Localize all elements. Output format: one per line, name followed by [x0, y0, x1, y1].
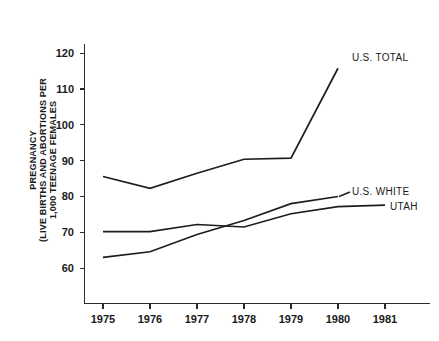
x-tick-label-1979: 1979: [279, 313, 303, 325]
y-tick-label-120: 120: [56, 47, 74, 59]
x-tick-label-1977: 1977: [185, 313, 209, 325]
y-tick-label-90: 90: [62, 155, 74, 167]
series-label-utah: UTAH: [390, 201, 418, 212]
series-label-us-total: U.S. TOTAL: [352, 52, 408, 63]
x-tick-label-1978: 1978: [232, 313, 256, 325]
x-tick-label-1981: 1981: [373, 313, 397, 325]
x-tick-label-1980: 1980: [326, 313, 350, 325]
y-tick-label-80: 80: [62, 190, 74, 202]
x-tick-label-1976: 1976: [138, 313, 162, 325]
y-tick-label-60: 60: [62, 262, 74, 274]
x-tick-label-1975: 1975: [91, 313, 115, 325]
y-tick-label-100: 100: [56, 119, 74, 131]
y-axis-title-line-2: (LIVE BIRTHS AND ABORTIONS PER: [38, 78, 48, 242]
series-label-us-white: U.S. WHITE: [352, 186, 409, 197]
y-axis-title-line-1: PREGNANCY: [28, 130, 38, 189]
chart-canvas: PREGNANCY (LIVE BIRTHS AND ABORTIONS PER…: [0, 0, 439, 341]
teen-pregnancy-line-chart: PREGNANCY (LIVE BIRTHS AND ABORTIONS PER…: [0, 0, 439, 341]
y-tick-label-110: 110: [56, 83, 74, 95]
y-tick-label-70: 70: [62, 226, 74, 238]
